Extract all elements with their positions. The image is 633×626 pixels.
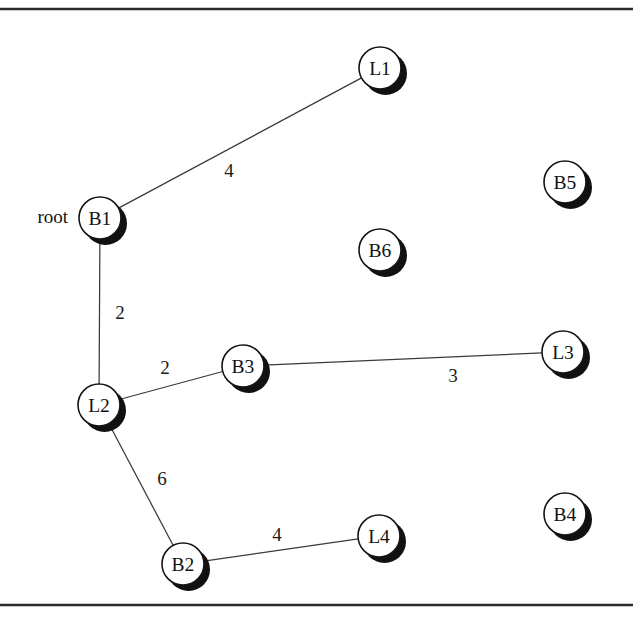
edge-weight-labels: 422364 — [115, 160, 458, 545]
node-label-l4: L4 — [368, 526, 390, 547]
node-label-l3: L3 — [552, 342, 574, 363]
edge-weight-b2-l4: 4 — [272, 524, 282, 545]
node-l3: L3 — [542, 331, 590, 379]
node-label-l1: L1 — [369, 58, 391, 79]
node-b5: B5 — [544, 161, 592, 209]
frame-rules — [0, 9, 633, 605]
node-b3: B3 — [222, 345, 270, 393]
root-annotation-label: root — [37, 206, 68, 227]
edge-b3-l3 — [264, 353, 542, 365]
node-b4: B4 — [544, 493, 592, 541]
graph-edges — [99, 78, 542, 561]
edge-b1-l1 — [119, 78, 362, 208]
node-b6: B6 — [359, 229, 407, 277]
node-label-b2: B2 — [172, 554, 195, 575]
node-b1: B1 — [79, 197, 127, 245]
node-l4: L4 — [358, 515, 406, 563]
graph-figure: B1L1L2B3L3B2L4B5B6B4 422364 root — [0, 0, 633, 626]
node-label-b6: B6 — [369, 240, 392, 261]
node-label-b5: B5 — [554, 172, 577, 193]
node-l2: L2 — [78, 384, 126, 432]
graph-annotations: root — [37, 206, 68, 227]
edge-weight-l2-b2: 6 — [157, 468, 167, 489]
node-label-b3: B3 — [232, 356, 255, 377]
edge-weight-b1-l2: 2 — [115, 302, 125, 323]
edge-weight-l2-b3: 2 — [160, 357, 170, 378]
node-label-b4: B4 — [554, 504, 577, 525]
edge-b1-l2 — [99, 239, 100, 384]
node-l1: L1 — [359, 47, 407, 95]
node-label-l2: L2 — [88, 395, 110, 416]
edge-l2-b3 — [119, 371, 222, 399]
node-b2: B2 — [162, 543, 210, 591]
edge-weight-b1-l1: 4 — [224, 160, 234, 181]
edge-weight-b3-l3: 3 — [448, 365, 458, 386]
node-label-b1: B1 — [89, 208, 112, 229]
graph-nodes: B1L1L2B3L3B2L4B5B6B4 — [78, 47, 592, 591]
graph-canvas: B1L1L2B3L3B2L4B5B6B4 422364 root — [0, 0, 633, 626]
